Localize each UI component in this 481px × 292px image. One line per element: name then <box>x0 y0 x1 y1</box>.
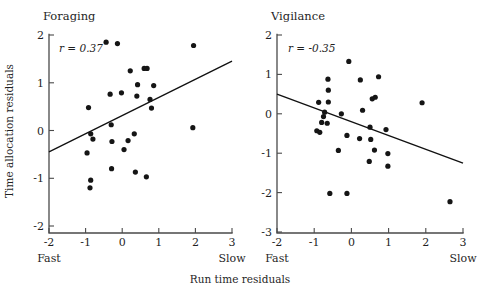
x-ticks-vigilance <box>277 228 463 233</box>
data-point <box>327 191 332 196</box>
x-axis-fast-label-vigilance: Fast <box>265 252 289 265</box>
panel-foraging: Foraging r = 0.37 2 1 0 -1 -2 <box>33 9 246 265</box>
data-point <box>336 148 341 153</box>
figure-container: Foraging r = 0.37 2 1 0 -1 -2 <box>0 0 481 292</box>
data-point <box>376 74 381 79</box>
y-tick-label: 1 <box>37 77 44 90</box>
data-point <box>119 90 124 95</box>
data-point <box>319 120 324 125</box>
data-point <box>104 40 109 45</box>
data-point <box>149 105 154 110</box>
y-tick-label: 2 <box>265 29 272 42</box>
data-point <box>344 133 349 138</box>
x-tick-label: 1 <box>385 236 392 249</box>
data-point <box>109 122 114 127</box>
y-tick-labels-foraging: 2 1 0 -1 -2 <box>33 29 44 233</box>
y-tick-label: 0 <box>265 108 272 121</box>
data-point <box>373 95 378 100</box>
data-point <box>419 100 424 105</box>
x-tick-label: 2 <box>422 236 429 249</box>
y-tick-label: -1 <box>261 147 272 160</box>
data-point <box>88 178 93 183</box>
data-point <box>385 151 390 156</box>
y-tick-label: 2 <box>37 29 44 42</box>
x-tick-label: -2 <box>44 236 55 249</box>
x-ticks-foraging <box>49 228 232 233</box>
data-point <box>321 114 326 119</box>
x-tick-labels-foraging: -2 -1 0 1 2 3 <box>44 236 236 249</box>
data-point <box>132 131 137 136</box>
data-point <box>367 159 372 164</box>
data-point <box>147 97 152 102</box>
x-tick-label: 0 <box>119 236 126 249</box>
data-point <box>135 82 140 87</box>
correlation-annotation-foraging: r = 0.37 <box>59 42 103 54</box>
data-point <box>90 136 95 141</box>
data-point <box>322 110 327 115</box>
x-tick-labels-vigilance: -2 -1 0 1 2 3 <box>272 236 467 249</box>
y-tick-label: 1 <box>265 68 272 81</box>
data-point <box>346 59 351 64</box>
trendline-foraging <box>49 61 232 152</box>
data-point <box>326 99 331 104</box>
data-point <box>368 137 373 142</box>
y-ticks-vigilance <box>277 35 282 232</box>
y-ticks-foraging <box>49 35 54 226</box>
data-point <box>360 108 365 113</box>
scatter-figure-svg: Foraging r = 0.37 2 1 0 -1 -2 <box>0 0 481 292</box>
data-point <box>357 136 362 141</box>
y-tick-label: -1 <box>33 172 44 185</box>
y-axis-title: Time allocation residuals <box>3 64 15 198</box>
y-tick-label: -2 <box>261 187 272 200</box>
x-tick-label: 0 <box>348 236 355 249</box>
x-tick-label: -1 <box>309 236 320 249</box>
x-tick-label: 3 <box>460 236 467 249</box>
data-point <box>190 125 195 130</box>
x-axis-title: Run time residuals <box>190 273 290 285</box>
data-point <box>383 127 388 132</box>
data-point <box>151 83 156 88</box>
x-tick-label: 2 <box>192 236 199 249</box>
data-point <box>125 138 130 143</box>
y-tick-label: -2 <box>33 220 44 233</box>
y-tick-label: 0 <box>37 125 44 138</box>
data-point <box>108 92 113 97</box>
data-point <box>133 169 138 174</box>
axes-vigilance <box>277 35 463 234</box>
panel-title-foraging: Foraging <box>43 9 96 23</box>
data-point <box>344 191 349 196</box>
data-point <box>191 43 196 48</box>
data-points-vigilance <box>314 59 452 204</box>
data-point <box>367 125 372 130</box>
data-point <box>115 41 120 46</box>
data-point <box>87 185 92 190</box>
panel-vigilance: Vigilance r = -0.35 2 1 0 -1 -2 -3 <box>261 9 477 265</box>
x-tick-label: 1 <box>155 236 162 249</box>
data-point <box>109 166 114 171</box>
data-point <box>325 77 330 82</box>
data-point <box>121 147 126 152</box>
data-point <box>316 100 321 105</box>
data-point <box>144 174 149 179</box>
x-axis-slow-label-vigilance: Slow <box>449 252 477 265</box>
data-point <box>358 77 363 82</box>
data-point <box>339 111 344 116</box>
y-tick-label: -3 <box>261 226 272 239</box>
y-tick-labels-vigilance: 2 1 0 -1 -2 -3 <box>261 29 272 239</box>
x-tick-label: -2 <box>272 236 283 249</box>
data-point <box>84 150 89 155</box>
x-axis-slow-label-foraging: Slow <box>218 252 246 265</box>
data-point <box>326 88 331 93</box>
data-point <box>325 121 330 126</box>
x-tick-label: -1 <box>80 236 91 249</box>
correlation-annotation-vigilance: r = -0.35 <box>288 42 336 54</box>
data-point <box>447 199 452 204</box>
data-point <box>134 94 139 99</box>
data-point <box>128 68 133 73</box>
data-point <box>144 66 149 71</box>
data-point <box>317 130 322 135</box>
x-tick-label: 3 <box>229 236 236 249</box>
data-point <box>109 139 114 144</box>
axes-foraging <box>49 35 232 234</box>
data-point <box>372 147 377 152</box>
